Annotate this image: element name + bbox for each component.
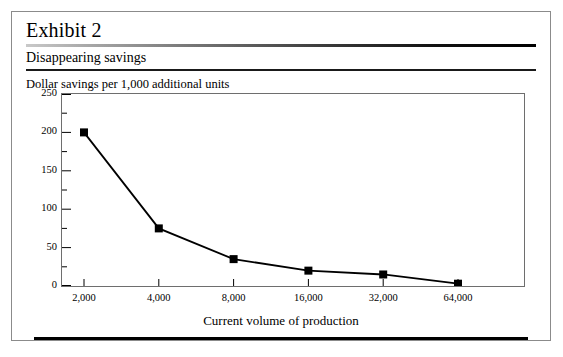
y-tick-label: 150 (27, 165, 57, 175)
x-tick-label: 8,000 (222, 291, 246, 304)
y-tick-label: 100 (27, 203, 57, 213)
x-axis-title: Current volume of production (26, 312, 536, 329)
y-tick-label: 50 (27, 242, 57, 252)
y-axis-tick-labels: 250200150100500 (26, 92, 57, 288)
x-tick-label: 2,000 (72, 291, 96, 304)
subtitle-divider (26, 69, 536, 71)
exhibit-card: Exhibit 2 Disappearing savings Dollar sa… (11, 11, 551, 341)
y-tick-label: 0 (27, 280, 57, 290)
exhibit-header: Exhibit 2 (26, 18, 536, 46)
subtitle-header: Disappearing savings (26, 48, 536, 73)
y-tick-label: 250 (27, 88, 57, 98)
x-tick-label: 32,000 (369, 291, 398, 304)
x-tick-label: 16,000 (294, 291, 323, 304)
x-tick-label: 64,000 (444, 291, 473, 304)
plot-frame (61, 93, 525, 287)
exhibit-subtitle: Disappearing savings (26, 48, 146, 67)
x-axis-tick-labels: 2,0004,0008,00016,00032,00064,000 (61, 291, 525, 307)
chart: 250200150100500 2,0004,0008,00016,00032,… (26, 92, 536, 307)
y-tick-label: 200 (27, 126, 57, 136)
x-tick-label: 4,000 (147, 291, 171, 304)
bottom-divider (34, 337, 528, 340)
exhibit-label: Exhibit 2 (26, 18, 102, 42)
plot-svg (62, 94, 524, 286)
title-divider (26, 44, 536, 47)
